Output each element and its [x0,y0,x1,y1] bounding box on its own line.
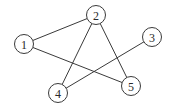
edge-1-2 [24,15,96,44]
node-3: 3 [143,28,162,47]
node-1: 1 [15,35,34,54]
node-label: 4 [55,87,61,101]
graph-diagram: 12345 [0,0,171,109]
node-2: 2 [87,6,106,25]
node-label: 3 [149,31,155,45]
edge-1-5 [24,44,131,86]
node-label: 2 [93,9,99,23]
edge-2-5 [96,15,131,86]
node-4: 4 [49,84,68,103]
node-label: 5 [128,80,134,94]
nodes-layer: 12345 [15,6,162,103]
node-label: 1 [21,38,27,52]
node-5: 5 [122,77,141,96]
